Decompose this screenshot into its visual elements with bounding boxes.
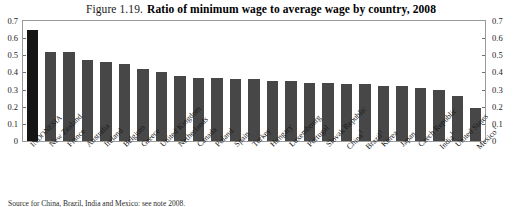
plot-area: [22, 20, 486, 142]
y-tickmark-left: [23, 55, 26, 56]
source-note: Source for China, Brazil, India and Mexi…: [8, 199, 185, 207]
figure-container: Figure 1.19. Ratio of minimum wage to av…: [0, 0, 522, 207]
y-tickmark-right: [482, 72, 485, 73]
y-tick-label-left: 0.2: [7, 103, 18, 111]
y-tick-label-right: 0.6: [492, 34, 503, 42]
figure-title: Figure 1.19. Ratio of minimum wage to av…: [0, 0, 522, 15]
y-tick-label-right: 0.7: [492, 17, 503, 25]
y-tick-label-left: 0.5: [7, 51, 18, 59]
y-tickmark-right: [482, 107, 485, 108]
y-tickmark-right: [482, 90, 485, 91]
y-tickmark-left: [23, 72, 26, 73]
y-tickmark-right: [482, 38, 485, 39]
y-tickmark-left: [23, 107, 26, 108]
y-tick-label-right: 0.5: [492, 51, 503, 59]
figure-number: Figure 1.19.: [86, 3, 143, 15]
y-axis-left: 0.70.60.50.40.30.20.10: [0, 20, 20, 142]
y-tick-label-left: 0.1: [7, 120, 18, 128]
plot-inner: [23, 21, 485, 141]
y-tickmark-left: [23, 124, 26, 125]
bar-series: [23, 21, 485, 141]
y-tick-label-right: 0.3: [492, 86, 503, 94]
y-tick-label-right: 0.4: [492, 68, 503, 76]
figure-title-text: Ratio of minimum wage to average wage by…: [147, 3, 436, 15]
y-tick-label-left: 0.6: [7, 34, 18, 42]
y-tickmark-right: [482, 55, 485, 56]
y-tick-label-left: 0.4: [7, 68, 18, 76]
y-tick-label-right: 0.2: [492, 103, 503, 111]
y-tickmark-left: [23, 90, 26, 91]
x-axis-category-labels: INDONESIANew ZealandFranceAustraliaIrela…: [22, 143, 486, 205]
bar: [27, 30, 38, 141]
y-tickmark-left: [23, 38, 26, 39]
y-tick-label-left: 0: [14, 137, 18, 145]
bar: [248, 79, 259, 141]
y-tick-label-left: 0.7: [7, 17, 18, 25]
y-tick-label-left: 0.3: [7, 86, 18, 94]
